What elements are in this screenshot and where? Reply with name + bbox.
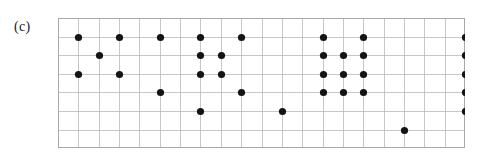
lattice-dot — [218, 52, 225, 59]
lattice-dot — [462, 108, 465, 115]
lattice-dot — [218, 71, 225, 78]
lattice-dot — [157, 34, 164, 41]
lattice-dot — [197, 71, 204, 78]
lattice-svg — [58, 18, 465, 148]
lattice-grid — [58, 18, 465, 148]
lattice-dot — [462, 71, 465, 78]
lattice-dot — [238, 34, 245, 41]
lattice-dot — [340, 89, 347, 96]
lattice-dot — [462, 34, 465, 41]
lattice-dot — [340, 71, 347, 78]
lattice-dot — [360, 52, 367, 59]
lattice-dot — [116, 71, 123, 78]
lattice-dot — [116, 34, 123, 41]
lattice-dot — [197, 52, 204, 59]
lattice-dots — [75, 34, 465, 134]
lattice-dot — [320, 89, 327, 96]
lattice-dot — [360, 89, 367, 96]
lattice-dot — [157, 89, 164, 96]
lattice-dot — [340, 52, 347, 59]
lattice-dot — [320, 34, 327, 41]
figure-panel: (c) — [0, 0, 484, 161]
lattice-dot — [360, 71, 367, 78]
lattice-dot — [75, 71, 82, 78]
lattice-dot — [360, 34, 367, 41]
lattice-dot — [462, 52, 465, 59]
lattice-dot — [462, 89, 465, 96]
lattice-dot — [197, 34, 204, 41]
panel-label: (c) — [14, 20, 30, 34]
lattice-dot — [238, 89, 245, 96]
lattice-dot — [401, 127, 408, 134]
lattice-dot — [197, 108, 204, 115]
lattice-dot — [96, 52, 103, 59]
lattice-dot — [279, 108, 286, 115]
lattice-dot — [320, 52, 327, 59]
lattice-dot — [320, 71, 327, 78]
lattice-dot — [75, 34, 82, 41]
